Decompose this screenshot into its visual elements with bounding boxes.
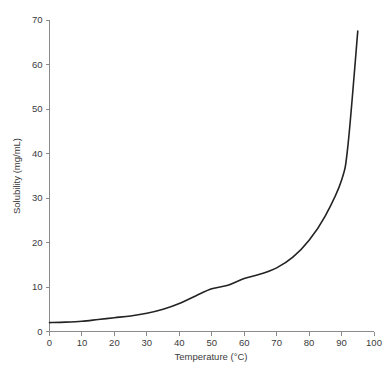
x-tick-label: 90: [336, 337, 347, 348]
x-tick-label: 20: [109, 337, 120, 348]
x-axis-tick-labels: 0102030405060708090100: [47, 337, 382, 348]
x-tick-label: 40: [174, 337, 185, 348]
y-tick-label: 40: [32, 148, 43, 159]
x-tick-label: 10: [77, 337, 88, 348]
y-tick-label: 70: [32, 14, 43, 25]
y-tick-label: 30: [32, 192, 43, 203]
x-axis-title: Temperature (°C): [175, 351, 248, 362]
y-axis-ticks: [46, 20, 50, 332]
y-tick-label: 60: [32, 59, 43, 70]
solubility-curve: [50, 31, 358, 322]
y-tick-label: 50: [32, 103, 43, 114]
solubility-vs-temperature-chart: 010203040506070 0102030405060708090100 T…: [0, 0, 388, 371]
x-tick-label: 30: [142, 337, 153, 348]
x-axis-ticks: [50, 332, 375, 336]
y-tick-label: 20: [32, 237, 43, 248]
y-axis-title: Solubility (mg/mL): [11, 138, 22, 214]
y-tick-label: 0: [37, 326, 42, 337]
x-tick-label: 0: [47, 337, 52, 348]
x-tick-label: 50: [206, 337, 217, 348]
x-tick-label: 70: [271, 337, 282, 348]
x-tick-label: 100: [366, 337, 382, 348]
x-tick-label: 60: [239, 337, 250, 348]
y-axis-tick-labels: 010203040506070: [32, 14, 43, 337]
x-tick-label: 80: [304, 337, 315, 348]
y-tick-label: 10: [32, 281, 43, 292]
chart-figure: 010203040506070 0102030405060708090100 T…: [0, 0, 388, 371]
